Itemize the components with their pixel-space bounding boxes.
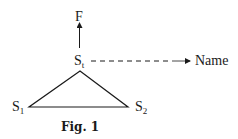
node-f-label: F [75, 9, 83, 24]
node-st-label: St [74, 53, 85, 70]
figure-caption: Fig. 1 [61, 120, 99, 134]
node-s2-label: S2 [135, 99, 147, 116]
node-name-label: Name [195, 53, 228, 68]
figure-diagram: F St Name S1 S2 Fig. 1 [0, 0, 238, 139]
triangle-shape [29, 71, 128, 107]
node-s1-label: S1 [12, 99, 24, 116]
